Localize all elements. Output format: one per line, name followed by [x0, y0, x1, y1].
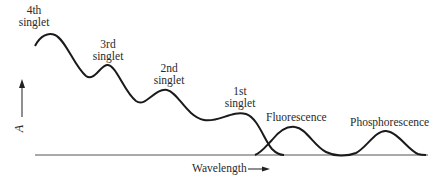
peak-label-line1: 4th — [10, 4, 58, 16]
band-label-fluorescence: Fluorescence — [266, 111, 327, 123]
peak-label-4th-singlet: 4th singlet — [10, 4, 58, 28]
peak-label-line1: 3rd — [84, 38, 132, 50]
y-axis-arrowhead-icon — [19, 79, 25, 88]
absorption-emission-diagram: 4th singlet 3rd singlet 2nd singlet 1st … — [0, 0, 442, 181]
x-axis-arrowhead-icon — [262, 167, 270, 172]
peak-label-2nd-singlet: 2nd singlet — [145, 62, 193, 86]
band-label-text: Fluorescence — [266, 111, 327, 123]
x-axis-label: Wavelength — [192, 162, 247, 174]
peak-label-line1: 2nd — [145, 62, 193, 74]
peak-label-line2: singlet — [10, 16, 58, 28]
peak-label-line2: singlet — [84, 50, 132, 62]
peak-label-3rd-singlet: 3rd singlet — [84, 38, 132, 62]
y-axis-label: A — [12, 125, 27, 132]
peak-label-line2: singlet — [145, 74, 193, 86]
peak-label-line2: singlet — [216, 97, 264, 109]
peak-label-1st-singlet: 1st singlet — [216, 85, 264, 109]
band-label-text: Phosphorescence — [350, 116, 429, 128]
peak-label-line1: 1st — [216, 85, 264, 97]
emission-curve — [255, 127, 426, 156]
band-label-phosphorescence: Phosphorescence — [350, 116, 429, 128]
